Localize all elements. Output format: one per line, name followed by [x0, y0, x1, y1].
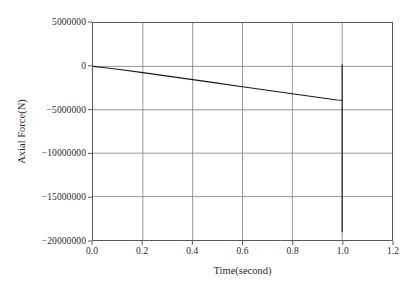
x-axis-tick-label: 0.2	[136, 246, 148, 256]
chart-figure: 50000000−5000000−10000000−15000000−20000…	[0, 0, 419, 290]
y-axis-title-text: Axial Force(N)	[16, 99, 27, 163]
y-axis-tick-label: 0	[81, 61, 86, 71]
x-axis-tick-label: 0.4	[186, 246, 198, 256]
plot-area	[92, 22, 393, 241]
y-axis-title: Axial Force(N)	[13, 22, 29, 241]
x-axis-tick-label: 1.0	[337, 246, 349, 256]
x-axis-tick-label: 0.0	[86, 246, 98, 256]
y-axis-tick-label: −10000000	[42, 148, 86, 158]
x-axis-title: Time(second)	[92, 265, 393, 276]
x-axis-tick-label: 0.8	[287, 246, 299, 256]
y-axis-tick-label: 5000000	[52, 17, 86, 27]
x-axis-tick-label: 1.2	[387, 246, 399, 256]
x-axis-title-text: Time(second)	[214, 265, 272, 276]
x-axis-tick-labels: 0.00.20.40.60.81.01.2	[92, 246, 393, 262]
y-axis-tick-label: −5000000	[47, 105, 86, 115]
data-series-layer	[93, 23, 392, 240]
y-axis-tick-label: −20000000	[42, 236, 86, 246]
x-axis-tick-label: 0.6	[236, 246, 248, 256]
y-axis-tick-label: −15000000	[42, 192, 86, 202]
